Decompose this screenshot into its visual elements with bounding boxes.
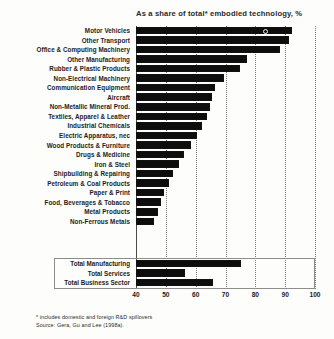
chart-title: As a share of total* embodied technology… (136, 9, 332, 18)
gridline-100 (315, 26, 317, 289)
category-label: Rubber & Plastic Products (0, 64, 133, 74)
category-label: Paper & Print (0, 188, 133, 198)
x-tick-label: 80 (252, 291, 259, 298)
bar-row (136, 131, 315, 141)
data-point-marker (263, 29, 268, 34)
bar-row (136, 207, 315, 217)
bar (136, 160, 179, 168)
bar-row (136, 160, 315, 170)
totals-bar-row (136, 269, 315, 279)
category-label: Other Transport (0, 36, 133, 46)
totals-bar-row (136, 278, 315, 288)
bar-row (136, 169, 315, 179)
bar-row (136, 55, 315, 65)
bar (136, 36, 289, 44)
bar-series (136, 26, 315, 226)
bar (136, 46, 280, 54)
category-label: Motor Vehicles (0, 26, 133, 36)
totals-bar (136, 279, 213, 287)
bar-row (136, 26, 315, 36)
bar (136, 74, 224, 82)
x-tick-label: 70 (222, 291, 229, 298)
bar-row (136, 188, 315, 198)
category-label: Aircraft (0, 93, 133, 103)
footnote-source: Source: Gera, Gu and Lee (1998a). (36, 321, 152, 329)
bar (136, 103, 210, 111)
bar (136, 55, 247, 63)
category-label: Non-Ferrous Metals (0, 217, 133, 227)
category-label: Electric Apparatus, nec (0, 131, 133, 141)
bar (136, 93, 212, 101)
bar-row (136, 64, 315, 74)
totals-bar-series (136, 259, 315, 288)
plot-area (136, 26, 315, 289)
bar-row (136, 150, 315, 160)
bar (136, 218, 154, 226)
bar (136, 65, 240, 73)
x-tick-label: 40 (132, 291, 139, 298)
bar-row (136, 45, 315, 55)
category-label: Non-Electrical Machinery (0, 74, 133, 84)
x-tick-label: 90 (281, 291, 288, 298)
bar (136, 132, 197, 140)
bar-row (136, 217, 315, 227)
footnote-asterisk: * includes domestic and foreign R&D spil… (36, 313, 152, 321)
bar (136, 151, 184, 159)
bar (136, 189, 164, 197)
totals-bar-row (136, 259, 315, 269)
bar-row (136, 198, 315, 208)
bar-row (136, 112, 315, 122)
totals-bar (136, 260, 241, 268)
x-tick-label: 100 (309, 291, 320, 298)
totals-category-label: Total Business Sector (0, 278, 133, 288)
x-tick-label: 50 (162, 291, 169, 298)
bar (136, 84, 215, 92)
bar (136, 170, 173, 178)
totals-category-label: Total Manufacturing (0, 259, 133, 269)
category-label: Textiles, Apparel & Leather (0, 112, 133, 122)
bar (136, 113, 207, 121)
bar-row (136, 102, 315, 112)
category-axis-labels: Motor VehiclesOther TransportOffice & Co… (0, 26, 133, 226)
category-label: Non-Metallic Mineral Prod. (0, 102, 133, 112)
x-tick-label: 60 (192, 291, 199, 298)
category-label: Iron & Steel (0, 160, 133, 170)
totals-category-labels: Total ManufacturingTotal ServicesTotal B… (0, 259, 133, 288)
category-label: Shipbuilding & Repairing (0, 169, 133, 179)
category-label: Office & Computing Machinery (0, 45, 133, 55)
bar-row (136, 36, 315, 46)
bar (136, 141, 191, 149)
category-label: Wood Products & Furniture (0, 141, 133, 151)
x-axis-ticks: 405060708090100 (136, 291, 315, 303)
bar-row (136, 93, 315, 103)
bar (136, 179, 169, 187)
bar (136, 208, 158, 216)
bar (136, 27, 292, 35)
category-label: Petroleum & Coal Products (0, 179, 133, 189)
totals-category-label: Total Services (0, 269, 133, 279)
bar-row (136, 74, 315, 84)
bar-row (136, 83, 315, 93)
bar (136, 122, 202, 130)
bar-row (136, 179, 315, 189)
totals-bar (136, 269, 185, 277)
category-label: Industrial Chemicals (0, 121, 133, 131)
category-label: Drugs & Medicine (0, 150, 133, 160)
footnotes: * includes domestic and foreign R&D spil… (36, 313, 152, 329)
bar-row (136, 141, 315, 151)
category-label: Food, Beverages & Tobacco (0, 198, 133, 208)
bar-row (136, 121, 315, 131)
category-label: Communication Equipment (0, 83, 133, 93)
bar (136, 198, 161, 206)
category-label: Other Manufacturing (0, 55, 133, 65)
category-label: Metal Products (0, 207, 133, 217)
chart-container: As a share of total* embodied technology… (0, 0, 334, 339)
